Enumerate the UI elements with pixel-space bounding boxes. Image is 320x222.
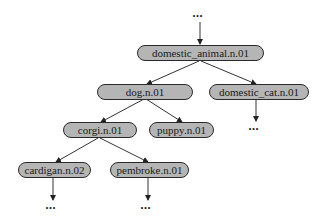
edge-corgi-to-pembroke <box>100 138 148 162</box>
edge-domestic-animal-to-dog <box>147 61 199 84</box>
node-pembroke[interactable]: pembroke.n.01 <box>110 162 189 178</box>
edges-layer <box>0 0 320 222</box>
edge-corgi-to-cardigan <box>56 138 98 162</box>
ellipsis-pembroke: ··· <box>140 204 151 212</box>
edge-dog-to-puppy <box>146 99 182 122</box>
node-domestic-cat[interactable]: domestic_cat.n.01 <box>209 84 309 100</box>
edge-dog-to-corgi <box>101 99 144 122</box>
edge-domestic-animal-to-domestic-cat <box>201 61 256 84</box>
node-domestic-animal[interactable]: domestic_animal.n.01 <box>137 45 264 61</box>
node-dog[interactable]: dog.n.01 <box>97 84 193 100</box>
node-cardigan[interactable]: cardigan.n.02 <box>18 162 91 178</box>
ellipsis-cardigan: ··· <box>45 204 56 212</box>
node-corgi[interactable]: corgi.n.01 <box>63 122 137 138</box>
ellipsis-domestic-cat: ··· <box>248 125 259 133</box>
ellipsis-top: ··· <box>192 12 203 20</box>
node-puppy[interactable]: puppy.n.01 <box>149 122 214 138</box>
